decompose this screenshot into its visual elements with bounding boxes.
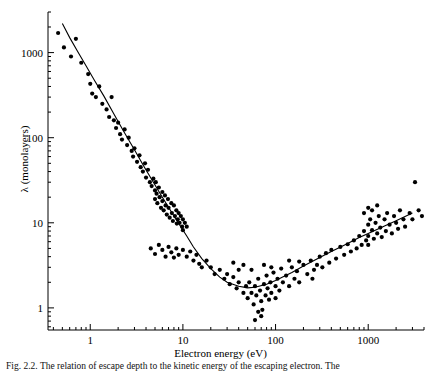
data-point	[355, 246, 359, 250]
data-point	[366, 234, 370, 238]
data-point	[318, 255, 322, 259]
data-point	[241, 291, 245, 295]
data-point	[390, 231, 394, 235]
data-point	[166, 245, 170, 249]
data-point	[146, 168, 150, 172]
data-point	[241, 263, 245, 267]
data-point	[168, 216, 172, 220]
data-point	[131, 154, 135, 158]
data-point	[315, 263, 319, 267]
data-point	[269, 291, 273, 295]
data-point	[185, 225, 189, 229]
data-point	[86, 72, 90, 76]
data-point	[123, 127, 127, 131]
y-axis-title: λ (monolayers)	[18, 126, 30, 193]
data-point	[149, 246, 153, 250]
data-point	[100, 102, 104, 106]
data-point	[277, 288, 281, 292]
data-point	[163, 193, 167, 197]
data-point	[273, 284, 277, 288]
data-point	[157, 185, 161, 189]
data-point	[249, 291, 253, 295]
data-point	[162, 208, 166, 212]
data-point	[420, 214, 424, 218]
data-point	[171, 219, 175, 223]
data-point	[338, 245, 342, 249]
data-point	[262, 282, 266, 286]
data-point	[366, 206, 370, 210]
data-point	[327, 261, 331, 265]
data-point	[143, 161, 147, 165]
data-point	[362, 229, 366, 233]
y-tick-label: 1000	[21, 47, 44, 59]
universal-curve-line	[62, 23, 412, 287]
data-point	[398, 208, 402, 212]
data-point	[253, 318, 257, 322]
data-point	[173, 214, 177, 218]
data-point	[324, 251, 328, 255]
x-tick-label: 1000	[357, 334, 380, 346]
data-point	[284, 273, 288, 277]
y-axis-title-wrapper: λ (monolayers)	[14, 99, 32, 219]
data-point	[191, 258, 195, 262]
data-point	[259, 314, 263, 318]
data-point	[297, 260, 301, 264]
data-point	[231, 275, 235, 279]
data-point	[295, 269, 299, 273]
data-point	[225, 272, 229, 276]
data-point	[382, 217, 386, 221]
data-point	[301, 263, 305, 267]
data-point	[346, 242, 350, 246]
x-tick-label: 1	[87, 334, 93, 346]
data-point	[188, 249, 192, 253]
data-point	[366, 223, 370, 227]
data-point	[264, 273, 268, 277]
data-point	[132, 146, 136, 150]
data-point	[56, 31, 60, 35]
data-point	[181, 228, 185, 232]
data-point	[172, 256, 176, 260]
data-point	[88, 82, 92, 86]
data-point	[116, 121, 120, 125]
data-point	[375, 203, 379, 207]
data-point	[135, 160, 139, 164]
data-point	[334, 256, 338, 260]
data-point	[104, 107, 108, 111]
data-point	[279, 266, 283, 270]
figure-container: 11010010001101001000 Electron energy (eV…	[0, 0, 441, 376]
data-point	[218, 268, 222, 272]
data-point	[357, 234, 361, 238]
data-point	[118, 132, 122, 136]
data-point	[249, 268, 253, 272]
data-point	[153, 197, 157, 201]
data-point	[329, 248, 333, 252]
data-point	[268, 280, 272, 284]
data-point	[174, 246, 178, 250]
data-point	[237, 268, 241, 272]
data-point	[200, 265, 204, 269]
data-point	[267, 298, 271, 302]
data-point	[342, 253, 346, 257]
data-point	[262, 263, 266, 267]
data-point	[194, 253, 198, 257]
data-point	[260, 308, 264, 312]
data-point	[228, 282, 232, 286]
data-point	[170, 211, 174, 215]
data-point	[209, 265, 213, 269]
data-point	[320, 265, 324, 269]
data-point	[151, 177, 155, 181]
data-point	[372, 237, 376, 241]
data-point	[197, 262, 201, 266]
data-point	[127, 136, 131, 140]
data-point	[74, 37, 78, 41]
data-point	[157, 243, 161, 247]
data-point	[312, 268, 316, 272]
data-point	[364, 238, 368, 242]
data-point	[213, 272, 217, 276]
data-point	[370, 228, 374, 232]
x-axis-title: Electron energy (eV)	[0, 347, 441, 359]
data-point	[401, 217, 405, 221]
data-point	[410, 217, 414, 221]
data-point	[181, 217, 185, 221]
data-point	[305, 272, 309, 276]
